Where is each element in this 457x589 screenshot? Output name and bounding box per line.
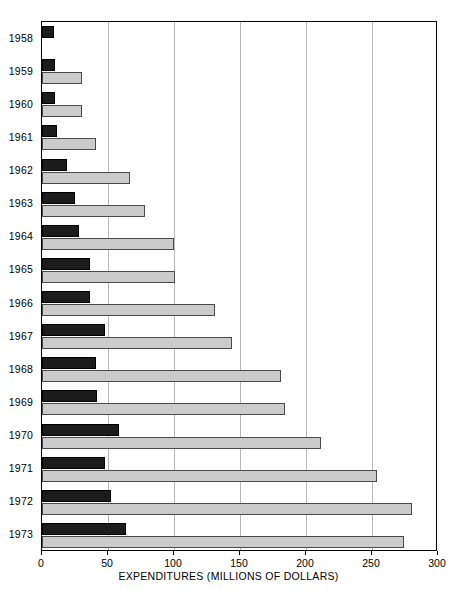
x-tick-label-300: 300	[428, 557, 446, 569]
bar-dark-series-1965	[42, 258, 90, 270]
bar-dark-series-1959	[42, 59, 55, 71]
year-group-1963	[42, 188, 436, 221]
bar-light-series-1961	[42, 138, 96, 150]
year-group-1969	[42, 386, 436, 419]
year-label-1960: 1960	[9, 98, 33, 110]
bar-light-series-1968	[42, 370, 281, 382]
year-label-1973: 1973	[9, 528, 33, 540]
x-tick-label-50: 50	[101, 557, 113, 569]
year-group-1961	[42, 121, 436, 154]
bar-light-series-1964	[42, 238, 174, 250]
bar-dark-series-1964	[42, 225, 79, 237]
year-label-1972: 1972	[9, 495, 33, 507]
bar-light-series-1965	[42, 271, 175, 283]
bar-light-series-1967	[42, 337, 232, 349]
bar-light-series-1971	[42, 470, 377, 482]
year-group-1967	[42, 320, 436, 353]
bar-dark-series-1970	[42, 424, 119, 436]
bar-light-series-1973	[42, 536, 404, 548]
year-group-1972	[42, 486, 436, 519]
bar-light-series-1966	[42, 304, 215, 316]
bar-dark-series-1958	[42, 26, 54, 38]
year-label-1958: 1958	[9, 32, 33, 44]
bar-dark-series-1962	[42, 159, 67, 171]
year-label-1959: 1959	[9, 65, 33, 77]
year-label-1971: 1971	[9, 462, 33, 474]
year-label-1968: 1968	[9, 363, 33, 375]
year-group-1970	[42, 420, 436, 453]
bar-light-series-1972	[42, 503, 412, 515]
x-tick-label-250: 250	[362, 557, 380, 569]
year-group-1971	[42, 453, 436, 486]
year-label-1966: 1966	[9, 297, 33, 309]
x-axis-ticks: 050100150200250300	[41, 551, 437, 571]
year-group-1973	[42, 519, 436, 552]
x-tick-100	[173, 551, 174, 555]
year-label-1962: 1962	[9, 164, 33, 176]
x-tick-300	[437, 551, 438, 555]
bar-dark-series-1960	[42, 92, 55, 104]
bar-light-series-1960	[42, 105, 82, 117]
bar-light-series-1962	[42, 172, 130, 184]
year-group-1958	[42, 22, 436, 55]
plot-area	[41, 21, 437, 551]
year-group-1959	[42, 55, 436, 88]
bar-light-series-1959	[42, 72, 82, 84]
x-tick-label-200: 200	[296, 557, 314, 569]
bar-dark-series-1971	[42, 457, 105, 469]
year-label-1969: 1969	[9, 396, 33, 408]
bar-dark-series-1966	[42, 291, 90, 303]
year-group-1968	[42, 353, 436, 386]
year-group-1964	[42, 221, 436, 254]
bar-light-series-1969	[42, 403, 285, 415]
x-tick-label-0: 0	[38, 557, 44, 569]
bar-dark-series-1968	[42, 357, 96, 369]
bar-dark-series-1973	[42, 523, 126, 535]
bar-light-series-1963	[42, 205, 145, 217]
bars-layer	[42, 22, 436, 550]
year-label-1967: 1967	[9, 330, 33, 342]
bar-dark-series-1963	[42, 192, 75, 204]
x-tick-label-150: 150	[230, 557, 248, 569]
x-tick-150	[239, 551, 240, 555]
year-group-1965	[42, 254, 436, 287]
x-tick-50	[107, 551, 108, 555]
year-label-1963: 1963	[9, 197, 33, 209]
year-group-1966	[42, 287, 436, 320]
x-axis-title: EXPENDITURES (MILLIONS OF DOLLARS)	[0, 570, 457, 582]
year-label-1964: 1964	[9, 230, 33, 242]
year-group-1962	[42, 155, 436, 188]
year-label-1961: 1961	[9, 131, 33, 143]
x-tick-label-100: 100	[164, 557, 182, 569]
year-axis-labels: 1958195919601961196219631964196519661967…	[0, 21, 38, 551]
year-label-1965: 1965	[9, 263, 33, 275]
year-group-1960	[42, 88, 436, 121]
x-tick-250	[371, 551, 372, 555]
bar-dark-series-1969	[42, 390, 97, 402]
year-label-1970: 1970	[9, 429, 33, 441]
bar-dark-series-1961	[42, 125, 57, 137]
bar-chart-figure: 1958195919601961196219631964196519661967…	[0, 0, 457, 589]
x-tick-0	[41, 551, 42, 555]
bar-dark-series-1972	[42, 490, 111, 502]
bar-light-series-1970	[42, 437, 321, 449]
x-tick-200	[305, 551, 306, 555]
bar-dark-series-1967	[42, 324, 105, 336]
